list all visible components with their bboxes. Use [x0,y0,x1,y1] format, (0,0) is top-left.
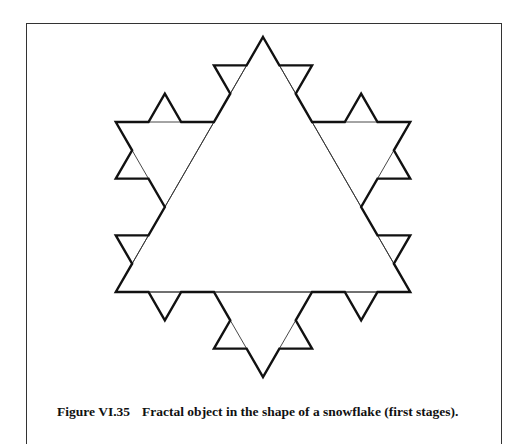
figure-label: Figure VI.35 [57,404,130,419]
construction-line [279,320,295,348]
construction-lines [116,37,410,349]
construction-line [132,150,148,178]
construction-line [378,150,394,178]
construction-line [165,122,214,207]
snowflake-outline [116,37,410,377]
construction-line [132,235,148,263]
construction-line [378,235,394,263]
construction-line [230,65,246,93]
construction-line [312,122,361,207]
figure-caption-text: Fractal object in the shape of a snowfla… [142,404,458,419]
construction-line [279,65,295,93]
construction-line [230,320,246,348]
figure-caption: Figure VI.35Fractal object in the shape … [57,404,458,420]
